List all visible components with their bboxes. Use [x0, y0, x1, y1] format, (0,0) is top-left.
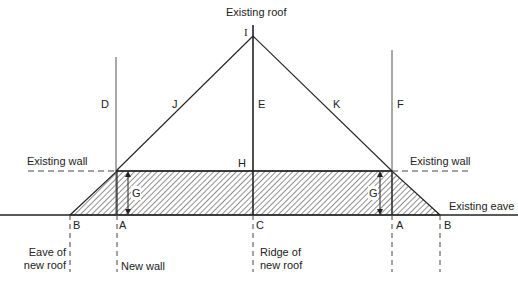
- label-f: F: [397, 98, 404, 110]
- label-a-left: A: [119, 219, 126, 231]
- hatched-new-roof-area: [70, 171, 440, 215]
- new-wall-label: New wall: [121, 260, 165, 272]
- roof-slope-j: [116, 36, 253, 171]
- existing-wall-right-label: Existing wall: [410, 155, 471, 167]
- label-g-right: G: [369, 187, 378, 199]
- label-i: I: [244, 26, 248, 38]
- label-b-left: B: [73, 219, 80, 231]
- roof-slope-k: [253, 36, 392, 171]
- label-e: E: [258, 98, 265, 110]
- label-a-right: A: [396, 219, 403, 231]
- roof-section-diagram: [0, 0, 518, 283]
- label-g-left: G: [132, 187, 141, 199]
- eave-of-new-roof-label: Eave of new roof: [22, 246, 66, 272]
- label-b-right: B: [444, 219, 451, 231]
- ridge-of-new-roof-label: Ridge of new roof: [260, 246, 302, 272]
- existing-roof-label: Existing roof: [226, 6, 287, 18]
- label-j: J: [172, 98, 178, 110]
- existing-wall-left-label: Existing wall: [27, 155, 88, 167]
- label-h: H: [238, 157, 246, 169]
- existing-eave-label: Existing eave: [449, 200, 514, 212]
- label-d: D: [101, 98, 109, 110]
- label-c: C: [256, 219, 264, 231]
- label-k: K: [333, 98, 340, 110]
